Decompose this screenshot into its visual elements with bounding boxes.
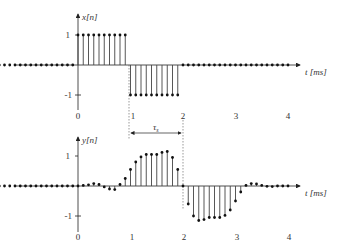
bottom-xtick-2: 2 (182, 232, 187, 242)
stem-point (239, 64, 242, 67)
stem-point (108, 188, 111, 191)
stem-point (3, 185, 6, 188)
stem-point (8, 64, 11, 67)
stem-point (45, 64, 48, 67)
stem-point (260, 64, 263, 67)
top-ytick-pos: 1 (66, 30, 71, 40)
stem-point (40, 185, 43, 188)
stem-point (71, 185, 74, 188)
stem-point (129, 168, 132, 171)
stem-point (108, 34, 111, 37)
top-xtick-1: 1 (131, 111, 136, 121)
stem-point (87, 183, 90, 186)
stem-point (145, 153, 148, 156)
stem-point (66, 64, 69, 67)
stem-point (266, 64, 269, 67)
stem-point (14, 64, 17, 67)
bottom-plot: 1 -1 y[n] t [ms] 0 1 2 3 4 (0, 135, 327, 242)
stem-point (24, 185, 27, 188)
stem-point (171, 156, 174, 159)
stem-point (197, 219, 200, 222)
stem-point (82, 34, 85, 37)
stem-point (150, 94, 153, 97)
stem-point (213, 64, 216, 67)
stem-point (166, 94, 169, 97)
stem-point (150, 153, 153, 156)
stem-point (50, 185, 53, 188)
stem-point (24, 64, 27, 67)
stem-point (14, 185, 17, 188)
stem-point (35, 185, 38, 188)
stem-point (40, 64, 43, 67)
stem-point (224, 64, 227, 67)
stem-point (224, 214, 227, 217)
stem-point (56, 185, 59, 188)
stem-point (203, 218, 206, 221)
stem-point (276, 64, 279, 67)
stem-point (29, 64, 32, 67)
stem-point (255, 183, 258, 186)
stem-point (276, 185, 279, 188)
bottom-xtick-1: 1 (130, 232, 135, 242)
bottom-ylabel: y[n] (81, 135, 98, 145)
stem-point (271, 64, 274, 67)
stem-point (66, 185, 69, 188)
stem-point (176, 94, 179, 97)
stem-point (176, 168, 179, 171)
stem-point (92, 34, 95, 37)
stem-point (266, 185, 269, 188)
stem-point (71, 64, 74, 67)
stem-point (239, 191, 242, 194)
stem-point (124, 177, 127, 180)
top-xtick-4: 4 (286, 111, 291, 121)
stem-point (255, 64, 258, 67)
stem-plot-figure: 1 -1 x[n] t [ms] 0 1 2 3 4 τs 1 -1 y[n] … (0, 0, 338, 252)
stem-point (234, 200, 237, 203)
stem-point (113, 188, 116, 191)
stem-point (119, 34, 122, 37)
stem-point (98, 34, 101, 37)
stem-point (271, 185, 274, 188)
stem-point (61, 185, 64, 188)
stem-point (3, 64, 6, 67)
tau-label: τs (153, 122, 159, 133)
stem-point (213, 216, 216, 219)
stem-point (182, 185, 185, 188)
stem-point (208, 64, 211, 67)
bottom-xtick-3: 3 (235, 232, 240, 242)
stem-point (124, 34, 127, 37)
stem-point (82, 184, 85, 187)
stem-point (197, 64, 200, 67)
stem-point (113, 34, 116, 37)
stem-point (245, 64, 248, 67)
stem-point (187, 203, 190, 206)
stem-point (140, 94, 143, 97)
stem-point (260, 184, 263, 187)
stem-point (161, 94, 164, 97)
stem-point (50, 64, 53, 67)
stem-point (218, 216, 221, 219)
stem-point (61, 64, 64, 67)
stem-point (192, 64, 195, 67)
top-plot: 1 -1 x[n] t [ms] 0 1 2 3 4 τs (0, 12, 327, 210)
stem-point (229, 64, 232, 67)
bottom-xlabel: t [ms] (305, 188, 327, 198)
stem-point (35, 64, 38, 67)
stem-point (281, 64, 284, 67)
stem-point (92, 182, 95, 185)
stem-point (19, 185, 22, 188)
stem-point (77, 34, 80, 37)
stem-point (245, 184, 248, 187)
stem-point (87, 34, 90, 37)
stem-point (250, 182, 253, 185)
stem-point (229, 209, 232, 212)
stem-point (208, 216, 211, 219)
top-xlabel: t [ms] (305, 67, 327, 77)
top-xtick-0: 0 (76, 111, 81, 121)
top-xtick-3: 3 (234, 111, 239, 121)
stem-point (77, 185, 80, 188)
bottom-xtick-0: 0 (76, 232, 81, 242)
stem-point (155, 94, 158, 97)
bottom-ytick-pos: 1 (66, 151, 71, 161)
stem-point (98, 183, 101, 186)
